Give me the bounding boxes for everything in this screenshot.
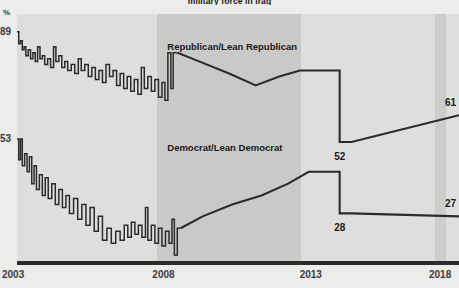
value-label-democrat-28: 28 (334, 222, 345, 233)
series-label-republican: Republican/Lean Republican (167, 41, 297, 52)
y-axis-tick-89: 89 (0, 26, 11, 37)
chart-canvas: military force in Iraq % 89 53 2003 2008… (0, 0, 459, 288)
x-axis-tick-2013: 2013 (300, 269, 322, 280)
value-label-republican-61: 61 (445, 97, 456, 108)
democrat-trend-line (181, 172, 459, 229)
x-axis-tick-2003: 2003 (2, 269, 24, 280)
value-label-democrat-27: 27 (445, 198, 456, 209)
x-axis-tick-2018: 2018 (429, 269, 451, 280)
x-axis-tick-2008: 2008 (152, 269, 174, 280)
y-axis-tick-53: 53 (0, 133, 11, 144)
series-label-democrat: Democrat/Lean Democrat (167, 142, 282, 153)
republican-trend-line (178, 53, 459, 142)
democrat-dense-line (17, 139, 181, 255)
chart-title: military force in Iraq (0, 0, 459, 5)
x-axis-line (17, 261, 459, 265)
y-axis-unit-label: % (3, 8, 10, 17)
value-label-republican-52: 52 (334, 151, 345, 162)
republican-dense-line (17, 32, 178, 100)
